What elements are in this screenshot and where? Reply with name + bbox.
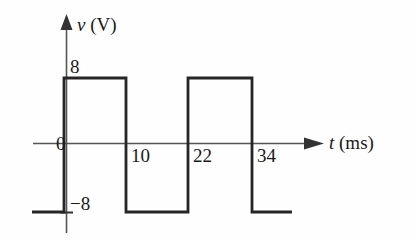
origin-label: 0 <box>56 134 66 153</box>
x-tick-label-34: 34 <box>257 146 276 165</box>
waveform-trace <box>32 78 292 212</box>
x-axis-unit: (ms) <box>334 132 374 153</box>
t-axis <box>33 138 324 150</box>
v-axis-arrow-icon <box>61 14 73 30</box>
x-tick-label-10: 10 <box>131 146 150 165</box>
x-tick-label-22: 22 <box>193 146 212 165</box>
y-tick-label-minus-8: −8 <box>70 194 90 213</box>
y-axis-title: v (V) <box>77 15 117 34</box>
x-axis-title: t (ms) <box>329 133 374 152</box>
waveform-figure: v (V) t (ms) 8 −8 0 10 22 34 <box>0 0 417 240</box>
y-tick-label-8: 8 <box>70 57 80 76</box>
t-axis-arrow-icon <box>304 138 324 150</box>
waveform-svg <box>0 0 417 240</box>
y-axis-unit: (V) <box>85 14 116 35</box>
